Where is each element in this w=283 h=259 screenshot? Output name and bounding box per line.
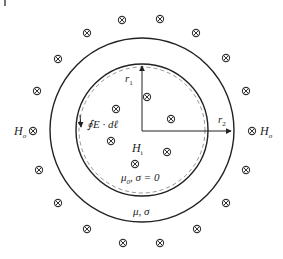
into-page-field-icon xyxy=(242,166,249,173)
label-line-integral: ∮E · dℓ xyxy=(87,118,118,131)
into-page-field-icon xyxy=(193,225,200,232)
into-page-field-icon xyxy=(143,93,150,100)
label-H-outer-left: Ho xyxy=(13,124,27,140)
label-r1: r1 xyxy=(125,72,133,87)
into-page-field-icon xyxy=(35,166,42,173)
into-page-field-icon xyxy=(248,127,255,134)
into-page-field-icon xyxy=(167,115,174,122)
label-inner-medium: μ0, σ = 0 xyxy=(120,171,160,186)
into-page-field-icon xyxy=(118,16,125,23)
into-page-field-icon xyxy=(156,239,163,246)
label-H-inner: Hi xyxy=(131,141,143,157)
into-page-field-icon xyxy=(192,29,199,36)
into-page-field-icon xyxy=(119,239,126,246)
into-page-field-icon xyxy=(163,148,170,155)
into-page-field-icon xyxy=(83,225,90,232)
into-page-field-icon xyxy=(54,55,61,62)
into-page-field-icon xyxy=(131,160,138,167)
label-H-outer-right: Ho xyxy=(259,124,273,140)
into-page-field-icon xyxy=(29,127,36,134)
into-page-field-icon xyxy=(107,137,114,144)
into-page-field-icon xyxy=(222,54,229,61)
into-page-field-icon xyxy=(33,87,40,94)
shell-field-diagram: r1 r2 Ho Ho Hi ∮E · dℓ μ0, σ = 0 μ, σ xyxy=(0,0,283,259)
into-page-field-icon xyxy=(54,199,61,206)
into-page-field-icon xyxy=(242,87,249,94)
label-r2: r2 xyxy=(218,113,226,128)
into-page-field-icon xyxy=(83,29,90,36)
label-shell-medium: μ, σ xyxy=(132,205,150,217)
into-page-field-icon xyxy=(222,199,229,206)
into-page-field-icon xyxy=(112,105,119,112)
into-page-field-icon xyxy=(156,15,163,22)
